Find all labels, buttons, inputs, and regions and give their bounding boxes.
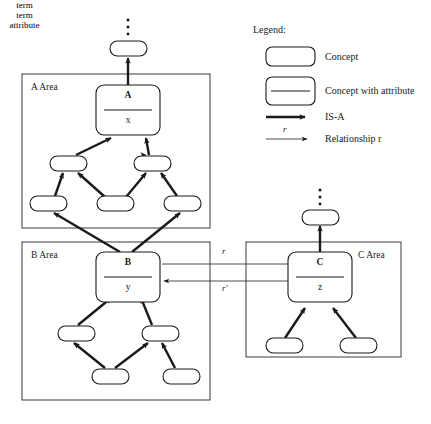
ellipsis-c-dot-1 [319, 189, 322, 192]
concept-attribute-a: x [96, 115, 160, 125]
isa-bbr-to-bmidright [162, 343, 175, 368]
node-b-mid-right[interactable] [142, 326, 179, 341]
legend-samples [266, 47, 315, 139]
isa-cright-to-c [333, 308, 356, 338]
node-b-leaf-right[interactable] [163, 369, 200, 384]
isa-bc-to-midright [126, 173, 146, 197]
node-stub-above-c[interactable] [302, 210, 339, 225]
isa-bc-to-midleft [78, 173, 105, 197]
legend-concept-box [266, 47, 315, 66]
node-stub-above-a[interactable] [110, 41, 147, 56]
relationship-label-r: r [222, 246, 226, 256]
legend-relationship-description: Relationship r [325, 133, 381, 144]
legend-concept-description: Concept [325, 51, 358, 62]
ellipsis-a-dot-1 [127, 19, 130, 22]
isa-midleft-to-a [76, 138, 111, 155]
node-a-mid-right[interactable] [134, 156, 171, 171]
node-c-leaf-right[interactable] [340, 338, 377, 353]
concept-attribute-b: y [96, 282, 160, 292]
relationship-arrows [162, 264, 296, 281]
ellipsis-c-dot-2 [319, 196, 322, 199]
concept-term-a: A [96, 90, 160, 100]
legend-relationship-sample-label: r [283, 124, 287, 134]
ellipsis-a-dot-3 [127, 33, 130, 36]
node-c-leaf-left[interactable] [266, 338, 303, 353]
isa-b-to-a-leftleaf [54, 213, 120, 252]
legend-attribute-description: Concept with attribute [325, 85, 414, 96]
isa-bbl-to-bmidright [115, 343, 148, 368]
legend-isa-description: IS-A [325, 111, 344, 122]
isa-cleft-to-c [285, 308, 305, 338]
isa-bbl-to-bmidleft [74, 343, 105, 368]
concept-term-b: B [96, 257, 160, 267]
node-a-leaf-right[interactable] [164, 196, 201, 211]
area-label-b: B Area [31, 250, 58, 260]
node-a-leaf-center[interactable] [97, 196, 134, 211]
concept-attribute-c: z [288, 282, 352, 292]
ellipsis-a-dot-2 [127, 26, 130, 29]
diagram-canvas [0, 0, 431, 424]
node-b-mid-left[interactable] [58, 326, 95, 341]
isa-midright-to-a2 [146, 138, 149, 155]
isa-bl-to-midleft [55, 173, 63, 196]
area-label-a: A Area [31, 82, 58, 92]
node-b-leaf-left[interactable] [92, 369, 129, 384]
area-label-c: C Area [358, 250, 385, 260]
relationship-label-r-prime: r' [222, 283, 227, 293]
isa-br-to-midright [161, 173, 177, 196]
isa-b-to-a-rightleaf [132, 213, 180, 252]
ellipsis-c-dot-3 [319, 203, 322, 206]
concept-term-c: C [288, 257, 352, 267]
node-a-mid-left[interactable] [50, 156, 87, 171]
node-a-leaf-left[interactable] [30, 196, 67, 211]
legend-title: Legend: [253, 24, 286, 35]
